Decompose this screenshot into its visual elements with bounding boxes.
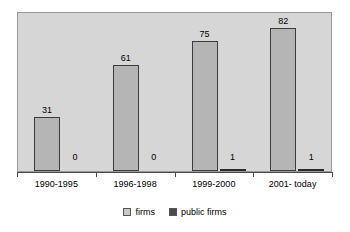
bar-firms: [270, 28, 296, 171]
legend-item-firms: firms: [123, 207, 155, 217]
bar-value-label-public-firms: 1: [298, 152, 324, 162]
bar-value-label-firms: 61: [113, 53, 139, 63]
bar-value-label-firms: 31: [34, 105, 60, 115]
bar-firms: [113, 65, 139, 171]
chart-legend: firms public firms: [0, 207, 350, 217]
bar-chart: 310610751821 firms public firms 1990-199…: [0, 0, 350, 232]
plot-inner: 310610751821: [18, 13, 331, 171]
legend-item-public-firms: public firms: [169, 207, 227, 217]
legend-label-public-firms: public firms: [181, 207, 227, 217]
x-axis-tick: [253, 172, 254, 177]
bar-value-label-public-firms: 0: [141, 152, 167, 162]
x-axis-category-label: 1990-1995: [17, 179, 96, 190]
bar-firms: [34, 117, 60, 171]
x-axis-tick: [175, 172, 176, 177]
x-axis-category-label: 1999-2000: [175, 179, 254, 190]
bar-public-firms: [298, 169, 324, 171]
x-axis-category-label: 2001- today: [253, 179, 332, 190]
x-axis-tick: [96, 172, 97, 177]
x-axis-tick: [332, 172, 333, 177]
legend-swatch-icon-public-firms: [169, 208, 177, 216]
legend-swatch-icon-firms: [123, 208, 131, 216]
bar-public-firms: [220, 169, 246, 171]
bar-firms: [192, 41, 218, 171]
bar-value-label-firms: 75: [192, 29, 218, 39]
bar-value-label-firms: 82: [270, 16, 296, 26]
x-axis-tick: [17, 172, 18, 177]
legend-label-firms: firms: [135, 207, 155, 217]
bar-value-label-public-firms: 0: [62, 152, 88, 162]
bar-value-label-public-firms: 1: [220, 152, 246, 162]
plot-area: 310610751821: [17, 12, 332, 172]
x-axis-category-label: 1996-1998: [96, 179, 175, 190]
